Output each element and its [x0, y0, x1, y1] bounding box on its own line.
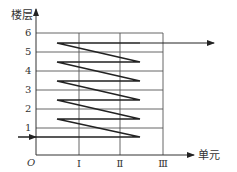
unit-label-1: Ⅰ: [77, 158, 81, 169]
floor-unit-traversal-diagram: 楼层 单元 O 1 2 3 4 5 6 Ⅰ Ⅱ Ⅲ: [0, 0, 237, 172]
origin-label: O: [27, 157, 35, 168]
floor-label-4: 4: [25, 65, 31, 76]
floor-label-1: 1: [25, 122, 31, 133]
floor-label-2: 2: [25, 103, 31, 114]
floor-label-6: 6: [25, 27, 31, 38]
x-axis-label: 单元: [198, 149, 220, 162]
floor-label-3: 3: [25, 84, 31, 95]
unit-label-3: Ⅲ: [158, 158, 168, 169]
floor-label-5: 5: [25, 46, 31, 57]
y-axis-label: 楼层: [11, 8, 33, 22]
unit-label-2: Ⅱ: [117, 158, 124, 169]
